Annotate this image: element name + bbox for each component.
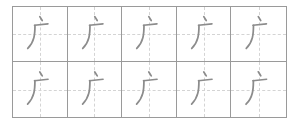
practice-cell: 广 (122, 7, 177, 62)
practice-cell: 广 (231, 62, 286, 117)
character-guang-glyph (177, 62, 231, 117)
practice-grid: 广 广 广 (12, 6, 287, 118)
character-guang-glyph (68, 7, 122, 61)
practice-cell: 广 (13, 7, 68, 62)
practice-cell: 广 (68, 7, 123, 62)
character-guang-glyph (13, 62, 67, 117)
practice-cell: 广 (68, 62, 123, 117)
character-guang-glyph (231, 62, 286, 117)
character-guang-glyph (231, 7, 286, 61)
character-guang-glyph (177, 7, 231, 61)
character-guang-glyph (122, 62, 176, 117)
character-guang-glyph (13, 7, 67, 61)
practice-cell: 广 (122, 62, 177, 117)
practice-cell: 广 (177, 62, 232, 117)
character-guang-glyph (68, 62, 122, 117)
practice-cell: 广 (13, 62, 68, 117)
practice-cell: 广 (177, 7, 232, 62)
character-guang-glyph (122, 7, 176, 61)
practice-cell: 广 (231, 7, 286, 62)
